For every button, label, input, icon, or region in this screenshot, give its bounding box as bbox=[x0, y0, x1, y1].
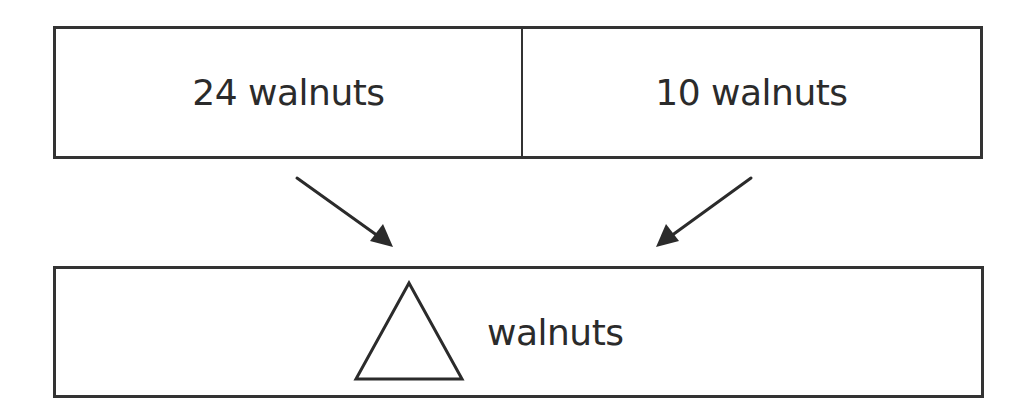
part-segment-1: 24 walnuts bbox=[56, 29, 523, 156]
whole-label: walnuts bbox=[487, 315, 624, 351]
part-segment-2: 10 walnuts bbox=[523, 29, 980, 156]
part-label-1: 24 walnuts bbox=[192, 75, 384, 111]
whole-label-group: walnuts bbox=[353, 281, 624, 381]
part-label-2: 10 walnuts bbox=[655, 75, 847, 111]
arrow-right-icon bbox=[656, 178, 751, 247]
bar-model-diagram: 24 walnuts 10 walnuts walnuts bbox=[0, 0, 1034, 417]
whole-bar: walnuts bbox=[53, 266, 984, 398]
triangle-icon bbox=[353, 280, 465, 382]
parts-bar: 24 walnuts 10 walnuts bbox=[53, 26, 983, 159]
arrow-left-icon bbox=[297, 178, 393, 247]
